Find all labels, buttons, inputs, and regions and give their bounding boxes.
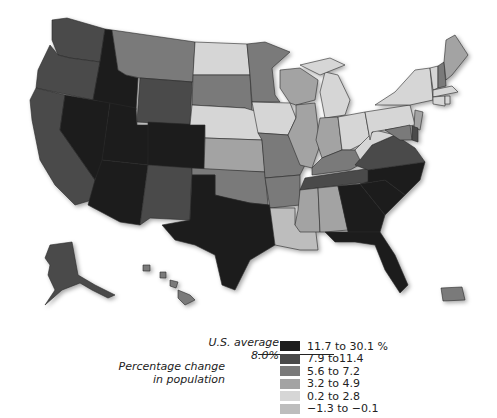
state-hawaii-kauai (143, 265, 150, 271)
legend-swatch (280, 366, 300, 376)
legend-label: 11.7 to 30.1 % (307, 341, 388, 352)
legend-label: 3.2 to 4.9 (307, 378, 360, 389)
legend-label: −1.3 to −0.1 (307, 403, 378, 414)
legend-item: 11.7 to 30.1 % (280, 340, 400, 353)
state-hawaii-big-island (178, 290, 195, 305)
legend-item: 3.2 to 4.9 (280, 378, 400, 391)
state-new-york (375, 68, 433, 105)
legend-swatch (280, 341, 300, 351)
territory-puerto-rico (441, 287, 465, 301)
state-new-mexico (140, 165, 192, 225)
legend-label: 0.2 to 2.8 (307, 391, 360, 402)
state-maine (444, 35, 468, 80)
state-hawaii-oahu (160, 272, 166, 278)
state-wisconsin (280, 68, 318, 105)
state-montana (112, 30, 195, 82)
legend-title: Percentage change in population (100, 360, 225, 386)
state-wyoming (137, 78, 192, 125)
legend: 11.7 to 30.1 % 7.9 to11.4 5.6 to 7.2 3.2… (280, 340, 400, 415)
legend-title-line1: Percentage change (100, 360, 225, 373)
legend-item: −1.3 to −0.1 (280, 403, 400, 416)
state-kansas (204, 138, 265, 172)
state-rhode-island (445, 96, 450, 104)
state-iowa (252, 102, 296, 135)
state-connecticut (433, 96, 445, 106)
legend-item: 5.6 to 7.2 (280, 365, 400, 378)
us-average-title: U.S. average (207, 336, 279, 349)
state-hawaii-maui (170, 280, 178, 288)
legend-swatch (280, 379, 300, 389)
state-arkansas (265, 175, 300, 208)
legend-swatch (280, 404, 300, 414)
legend-label: 5.6 to 7.2 (307, 366, 360, 377)
state-colorado (148, 122, 205, 170)
us-average-label: U.S. average 8.0% (207, 336, 279, 362)
state-delaware (412, 126, 418, 142)
state-florida (325, 232, 408, 293)
legend-item: 7.9 to11.4 (280, 353, 400, 366)
legend-label: 7.9 to11.4 (307, 353, 364, 364)
legend-title-line2: in population (100, 373, 225, 386)
legend-swatch (280, 354, 300, 364)
state-alaska (45, 242, 115, 305)
state-north-dakota (193, 42, 250, 75)
legend-item: 0.2 to 2.8 (280, 390, 400, 403)
legend-swatch (280, 391, 300, 401)
state-michigan (320, 72, 350, 118)
